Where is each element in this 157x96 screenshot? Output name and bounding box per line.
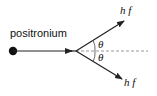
- angle-arc-lower: [93, 51, 95, 62]
- theta-upper-label: θ: [98, 38, 104, 50]
- positronium-label: positronium: [10, 27, 67, 39]
- photon-upper-label: h f: [120, 4, 133, 16]
- angle-arc-upper: [93, 40, 95, 51]
- photon-lower-label: h f: [124, 76, 137, 88]
- theta-lower-label: θ: [98, 51, 104, 63]
- positronium-annihilation-diagram: positronium θ θ h f h f: [0, 0, 157, 96]
